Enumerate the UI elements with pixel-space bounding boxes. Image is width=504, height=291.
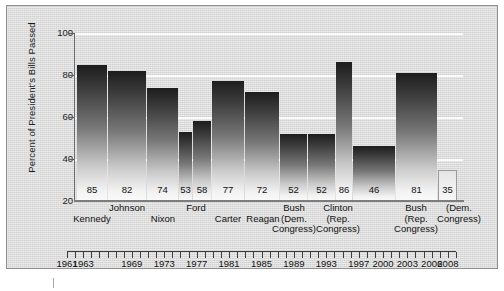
bar [353,146,395,201]
y-tick-mark [69,117,74,118]
bar [438,170,457,202]
bar [245,92,279,201]
president-label: (Dem.Congress) [417,203,501,224]
bar [193,121,211,201]
timeline-year-label: 1977 [183,258,211,269]
timeline-tick [245,252,246,258]
timeline-year-label: 1981 [215,258,243,269]
y-axis-title: Percent of President's Bills Passed [26,8,37,188]
president-label-line: Congress) [374,224,458,235]
president-label-line: Clinton [296,203,380,214]
bar [396,73,437,201]
president-label: Ford [154,203,238,214]
timeline-year-label: 1993 [312,258,340,269]
timeline-year-label: 1989 [280,258,308,269]
president-label-line: Congress) [417,214,501,225]
figure-stub-mark [53,278,54,288]
y-tick-mark [69,159,74,160]
year-timeline-axis [67,251,456,258]
timeline-tick [108,252,109,258]
timeline-tick [343,252,344,258]
timeline-year-label: 1985 [248,258,276,269]
timeline-tick [116,252,117,258]
timeline-year-label: 1973 [150,258,178,269]
timeline-tick [213,252,214,258]
president-label-line: Ford [154,203,238,214]
y-axis-ticks: 10080604020 [39,6,73,291]
president-label-line: Congress) [296,224,380,235]
timeline-year-label: 2008 [434,258,462,269]
timeline-year-label: 1969 [118,258,146,269]
y-tick-mark [69,75,74,76]
timeline-tick [148,252,149,258]
president-label: Clinton(Rep.Congress) [296,203,380,235]
president-labels: KennedyJohnsonNixonFordCarterReaganBush(… [7,203,504,243]
timeline-tick [180,252,181,258]
bar [280,134,307,201]
chart-panel: Percent of President's Bills Passed 1008… [6,5,498,269]
plot-area: 85827453587772525286468135 [75,33,463,201]
bar [308,134,335,201]
bar [179,132,192,201]
timeline-tick [278,252,279,258]
y-tick-mark [69,33,74,34]
bar [336,62,352,201]
gridline [75,33,463,35]
timeline-tick [99,252,100,258]
timeline-tick [310,252,311,258]
bar [108,71,146,201]
bar [147,88,178,201]
timeline-year-label: 1963 [69,258,97,269]
bar [77,65,107,202]
president-label-line: (Dem. [417,203,501,214]
bar [212,81,244,201]
